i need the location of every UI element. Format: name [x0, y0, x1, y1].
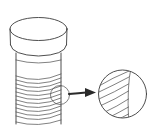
arrow-icon: [69, 88, 96, 97]
bolt-diagram: [0, 0, 156, 136]
bolt-head: [10, 18, 67, 57]
magnified-detail: [99, 68, 147, 121]
bolt-thread: [16, 74, 61, 125]
callout-circle: [51, 86, 70, 105]
